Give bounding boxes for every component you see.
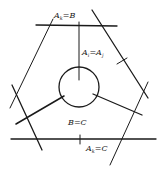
right-branch-line	[93, 94, 142, 115]
label-middle: Ai=Aj	[81, 48, 104, 59]
label-top: Ak=B	[53, 11, 76, 21]
phase-diagram: Ak=B Ai=Aj B=C Ak=C	[0, 0, 163, 170]
label-center-bottom: B=C	[67, 118, 87, 127]
right-lower-slanted-line	[110, 82, 148, 165]
label-bottom: Ak=C	[85, 144, 108, 154]
top-horizontal-line	[36, 25, 117, 26]
